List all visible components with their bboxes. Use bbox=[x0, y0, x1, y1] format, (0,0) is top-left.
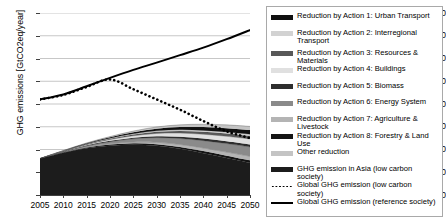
legend-label: Global GHG emission (reference society) bbox=[297, 197, 435, 206]
x-tick-label: 2010 bbox=[50, 201, 76, 210]
legend-label: Other reduction bbox=[297, 147, 349, 156]
legend-swatch bbox=[271, 15, 293, 20]
plot-clip bbox=[40, 13, 250, 195]
legend-item[interactable]: Global GHG emission (low carbon society) bbox=[271, 180, 440, 197]
legend-label: Reduction by Action 8: Forestry & Land U… bbox=[297, 131, 440, 149]
legend-swatch bbox=[271, 167, 293, 172]
legend-label: Reduction by Action 3: Resources & Mater… bbox=[297, 48, 440, 66]
x-tick-label: 2015 bbox=[74, 201, 100, 210]
legend-label: Global GHG emission (low carbon society) bbox=[297, 180, 440, 198]
legend-label: GHG emission in Asia (low carbon society… bbox=[297, 164, 440, 182]
x-tick-label: 2030 bbox=[144, 201, 170, 210]
legend-swatch bbox=[271, 101, 293, 106]
legend-item[interactable]: Reduction by Action 4: Buildings bbox=[271, 64, 440, 81]
ghg-emissions-chart: GHG emissions [GtCO2eq/year] 80706050403… bbox=[0, 0, 446, 223]
x-tick-label: 2050 bbox=[237, 201, 263, 210]
x-tick-label: 2035 bbox=[167, 201, 193, 210]
legend-swatch bbox=[271, 51, 293, 56]
legend-item[interactable]: GHG emission in Asia (low carbon society… bbox=[271, 164, 440, 181]
plot-area bbox=[40, 13, 250, 195]
legend-label: Reduction by Action 2: Interregional Tra… bbox=[297, 28, 417, 46]
legend-label: Reduction by Action 5: Biomass bbox=[297, 81, 404, 90]
legend-item[interactable]: Reduction by Action 7: Agriculture & Liv… bbox=[271, 114, 440, 131]
legend-swatch-solid-line bbox=[271, 202, 293, 204]
legend-swatch bbox=[271, 31, 293, 36]
legend-item[interactable]: Reduction by Action 1: Urban Transport bbox=[271, 11, 440, 28]
legend-swatch bbox=[271, 134, 293, 139]
x-tick-label: 2025 bbox=[120, 201, 146, 210]
legend-swatch bbox=[271, 117, 293, 122]
line-global-ghg-emission-reference-society bbox=[40, 30, 250, 99]
plot-svg bbox=[40, 13, 250, 195]
legend-item[interactable]: Reduction by Action 5: Biomass bbox=[271, 81, 440, 98]
legend-item[interactable]: Global GHG emission (reference society) bbox=[271, 197, 440, 214]
legend-label: Reduction by Action 7: Agriculture & Liv… bbox=[297, 114, 440, 132]
legend-label: Reduction by Action 1: Urban Transport bbox=[297, 11, 430, 20]
legend-item[interactable]: Reduction by Action 2: Interregional Tra… bbox=[271, 28, 440, 48]
legend-label: Reduction by Action 4: Buildings bbox=[297, 64, 406, 73]
legend-item[interactable]: Reduction by Action 8: Forestry & Land U… bbox=[271, 131, 440, 148]
chart-legend: Reduction by Action 1: Urban TransportRe… bbox=[266, 6, 443, 217]
x-tick-label: 2045 bbox=[214, 201, 240, 210]
x-axis-line bbox=[40, 195, 251, 196]
legend-swatch bbox=[271, 68, 293, 73]
legend-label: Reduction by Action 6: Energy System bbox=[297, 97, 426, 106]
y-axis-title: GHG emissions [GtCO2eq/year] bbox=[16, 0, 25, 148]
x-tick-label: 2040 bbox=[190, 201, 216, 210]
x-tick-label: 2020 bbox=[97, 201, 123, 210]
legend-swatch-dotted-line bbox=[271, 185, 293, 188]
x-tick-label: 2005 bbox=[27, 201, 53, 210]
legend-item[interactable]: Reduction by Action 3: Resources & Mater… bbox=[271, 48, 440, 65]
legend-swatch bbox=[271, 151, 293, 156]
legend-item[interactable]: Reduction by Action 6: Energy System bbox=[271, 97, 440, 114]
legend-item[interactable]: Other reduction bbox=[271, 147, 440, 164]
legend-swatch bbox=[271, 84, 293, 89]
